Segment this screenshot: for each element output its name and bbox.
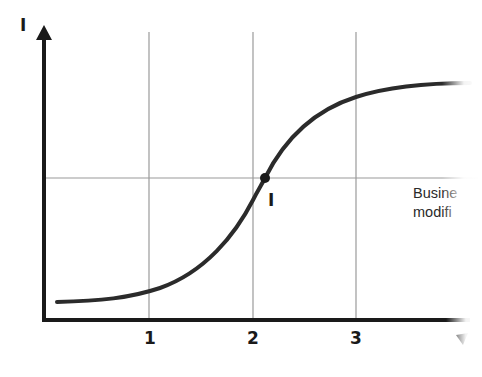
x-axis-arrow-icon <box>456 333 468 345</box>
x-tick-label-2: 2 <box>247 328 259 348</box>
side-annotation-line1: Busine <box>413 185 457 201</box>
x-tick-label-1: 1 <box>144 328 156 348</box>
x-tick-label-3: 3 <box>350 328 362 348</box>
s-curve-chart: I 1 2 3 I Busine modifi <box>0 0 482 377</box>
axes <box>42 38 470 320</box>
s-curve <box>57 83 470 302</box>
inflection-label: I <box>268 190 274 210</box>
y-axis-arrow-icon <box>36 25 52 40</box>
side-annotation-line2: modifi <box>413 204 452 220</box>
y-axis-label: I <box>20 15 26 35</box>
inflection-point <box>260 173 270 183</box>
